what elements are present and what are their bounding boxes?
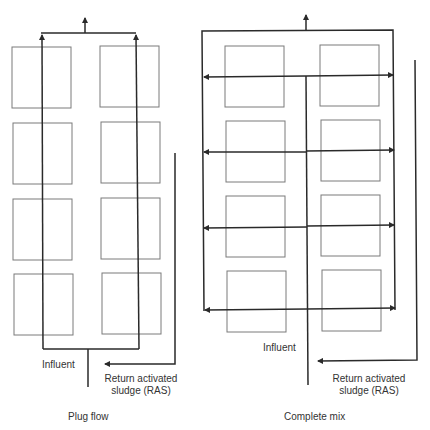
complete-mix-distribution-arrow-left [204,76,306,77]
complete-mix-distribution-arrow-right [307,308,395,309]
tank-box [226,196,285,257]
plug-flow-right-riser-arrow [136,35,139,349]
complete-mix-tanks [225,45,381,332]
complete-mix-ras-line [318,60,417,361]
plug-flow-diagram [12,18,175,387]
plug-flow-ras-label: Return activated sludge (RAS) [100,373,182,397]
complete-mix-diagram [202,15,417,385]
complete-mix-distribution-arrow-right [307,225,394,226]
tank-box [227,271,286,332]
plug-flow-influent-label: Influent [42,359,75,371]
tank-box [322,270,381,331]
tank-box [101,198,160,259]
complete-mix-distribution-arrow-right [306,150,394,151]
plug-flow-ras-label-line2: sludge (RAS) [100,385,182,397]
complete-mix-influent-label: Influent [263,342,296,354]
tank-box [100,46,159,107]
complete-mix-distribution-arrow-left [205,309,307,310]
complete-mix-distribution-arrow-right [306,75,393,76]
tank-box [102,273,161,334]
complete-mix-distribution-arrow-left [204,227,307,228]
complete-mix-ras-label-line1: Return activated [328,373,410,385]
complete-mix-title: Complete mix [284,411,345,423]
complete-mix-ras-label-line2: sludge (RAS) [328,385,410,397]
complete-mix-influent-line [306,76,308,385]
complete-mix-ras-label: Return activated sludge (RAS) [328,373,410,397]
complete-mix-collector-frame [202,30,395,311]
tank-box [101,122,160,183]
plug-flow-title: Plug flow [68,411,109,423]
plug-flow-left-riser-arrow [42,35,43,349]
plug-flow-ras-label-line1: Return activated [100,373,182,385]
